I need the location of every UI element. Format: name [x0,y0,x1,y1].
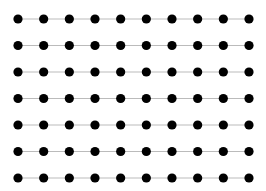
grid-node [219,147,228,156]
grid-row [13,120,253,129]
grid-node [116,41,125,50]
grid-node [167,14,176,23]
grid-node [116,67,125,76]
grid-node [219,41,228,50]
grid-row [13,67,253,76]
grid-node [65,120,74,129]
grid-node [39,14,48,23]
grid-node [13,41,22,50]
grid-node [90,14,99,23]
grid-node [116,14,125,23]
grid-node [244,14,253,23]
grid-node [39,41,48,50]
grid-node [167,41,176,50]
grid-node [167,147,176,156]
grid-node [244,94,253,103]
grid-node [116,173,125,182]
grid-node [65,173,74,182]
grid-row [13,147,253,156]
grid-node [142,173,151,182]
grid-node [142,147,151,156]
grid-node [193,67,202,76]
grid-node [193,173,202,182]
grid-node [244,67,253,76]
grid-node [244,147,253,156]
grid-node [39,173,48,182]
grid-row [13,14,253,23]
grid-node [193,14,202,23]
grid-node [167,94,176,103]
grid-node [65,67,74,76]
grid-node [142,41,151,50]
grid-node [167,173,176,182]
grid-node [219,94,228,103]
grid-node [39,147,48,156]
grid-node [90,67,99,76]
grid-node [90,147,99,156]
grid-node [39,67,48,76]
grid-node [142,94,151,103]
grid-node [142,14,151,23]
grid-node [193,147,202,156]
grid-node [219,120,228,129]
grid-node [13,94,22,103]
grid-node [39,120,48,129]
grid-row [13,41,253,50]
grid-node [90,41,99,50]
grid-node [90,120,99,129]
grid-node [193,94,202,103]
grid-node [65,14,74,23]
grid-node [142,120,151,129]
grid-node [167,67,176,76]
grid-node [116,120,125,129]
grid-node [167,120,176,129]
grid-node [13,67,22,76]
grid-node [65,94,74,103]
grid-node [193,120,202,129]
grid-node [244,120,253,129]
grid-node [219,67,228,76]
grid-node [65,147,74,156]
grid-node [219,173,228,182]
grid-node [244,41,253,50]
grid-node [13,147,22,156]
grid-node [116,147,125,156]
grid-node [65,41,74,50]
grid-node [142,67,151,76]
node-grid-diagram [0,0,266,191]
grid-node [90,94,99,103]
grid-node [116,94,125,103]
grid-node [244,173,253,182]
grid-row [13,94,253,103]
grid-node [13,120,22,129]
grid-node [193,41,202,50]
grid-node [13,173,22,182]
grid-row [13,173,253,182]
grid-node [219,14,228,23]
grid-node [39,94,48,103]
grid-node [90,173,99,182]
grid-node [13,14,22,23]
